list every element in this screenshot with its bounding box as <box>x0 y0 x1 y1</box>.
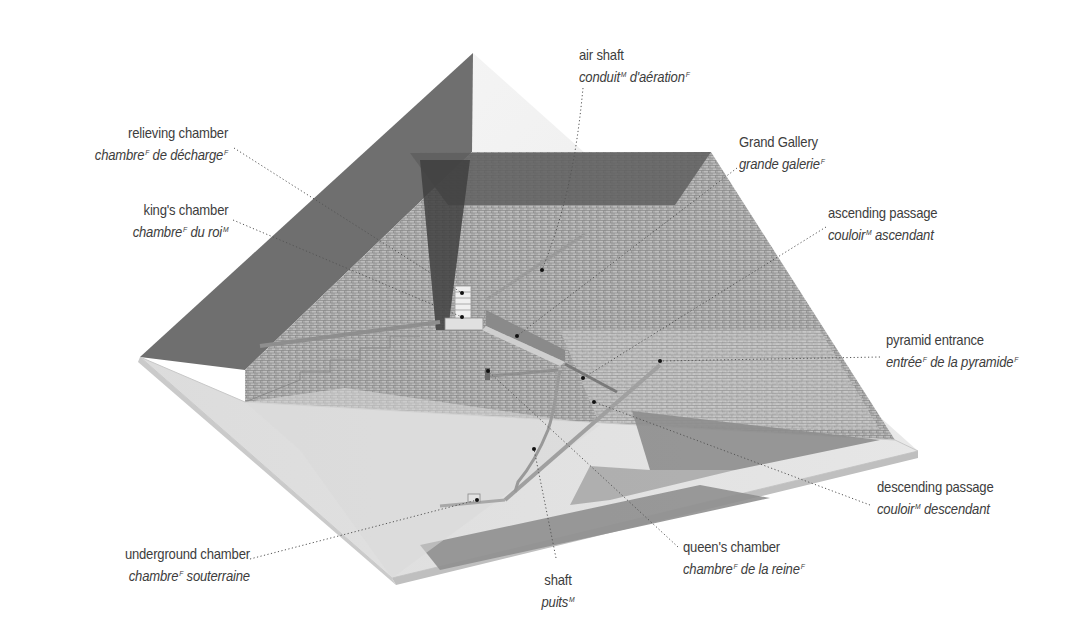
label-fr: chambreF de la reineF <box>683 557 805 579</box>
label-fr: couloirM ascendant <box>828 223 937 245</box>
label-queens-chamber: queen's chamber chambreF de la reineF <box>683 538 805 579</box>
label-air-shaft: air shaft conduitM d'aérationF <box>579 46 690 87</box>
label-en: descending passage <box>877 478 993 497</box>
label-en: king's chamber <box>132 201 228 220</box>
label-kings-chamber: king's chamber chambreF du roiM <box>132 201 228 242</box>
label-relieving-chamber: relieving chamber chambreF de déchargeF <box>95 124 228 165</box>
label-ascending-passage: ascending passage couloirM ascendant <box>828 204 937 245</box>
label-fr: chambreF du roiM <box>132 220 228 242</box>
label-pyramid-entrance: pyramid entrance entréeF de la pyramideF <box>886 331 1018 372</box>
label-en: shaft <box>540 571 576 590</box>
label-underground-chamber: underground chamber chambreF souterraine <box>125 545 250 586</box>
label-fr: chambreF de déchargeF <box>95 143 228 165</box>
label-fr: conduitM d'aérationF <box>579 65 690 87</box>
label-en: air shaft <box>579 46 690 65</box>
label-fr: couloirM descendant <box>877 497 993 519</box>
label-en: Grand Gallery <box>739 133 825 152</box>
label-en: ascending passage <box>828 204 937 223</box>
label-en: underground chamber <box>125 545 250 564</box>
label-en: relieving chamber <box>95 124 228 143</box>
label-grand-gallery: Grand Gallery grande galerieF <box>739 133 825 174</box>
label-en: queen's chamber <box>683 538 805 557</box>
label-fr: grande galerieF <box>739 152 825 174</box>
pyramid-diagram: air shaft conduitM d'aérationF relieving… <box>0 0 1070 644</box>
label-en: pyramid entrance <box>886 331 1018 350</box>
label-fr: entréeF de la pyramideF <box>886 350 1018 372</box>
label-fr: puitsM <box>540 590 576 612</box>
label-fr: chambreF souterraine <box>125 564 250 586</box>
label-descending-passage: descending passage couloirM descendant <box>877 478 993 519</box>
label-shaft: shaft puitsM <box>540 571 576 612</box>
